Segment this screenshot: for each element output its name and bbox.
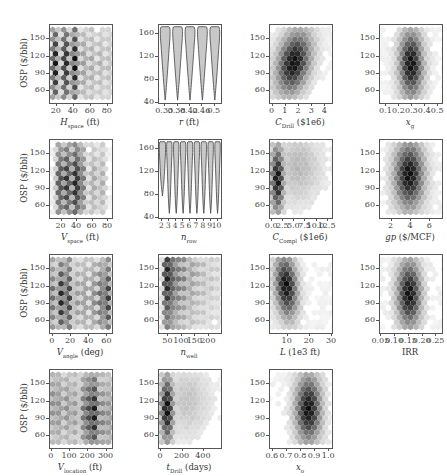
plot-area-vangle — [49, 254, 113, 334]
y-tick-mark — [376, 205, 379, 206]
y-tick-mark — [46, 56, 49, 57]
hexbin-density — [50, 140, 112, 218]
x-tick-mark — [201, 103, 202, 106]
x-tick-mark — [177, 103, 178, 106]
y-tick-label: 60 — [132, 316, 154, 324]
y-tick-mark — [266, 383, 269, 384]
x-axis-label: nwell — [148, 347, 230, 359]
y-tick-label: 120 — [132, 397, 154, 405]
plot-area-xg — [379, 24, 443, 104]
x-tick-mark — [203, 218, 204, 221]
y-tick-label: 90 — [243, 299, 265, 307]
x-tick-mark — [181, 333, 182, 336]
x-tick-mark — [70, 333, 71, 336]
y-tick-label: 120 — [243, 52, 265, 60]
x-label-subscript: Drill — [282, 123, 294, 129]
y-tick-mark — [155, 401, 158, 402]
x-tick-mark — [164, 103, 165, 106]
x-tick-mark — [314, 448, 315, 451]
y-tick-label: 120 — [243, 167, 265, 175]
y-tick-label: 160 — [132, 144, 154, 152]
y-tick-mark — [155, 418, 158, 419]
hexbin-density — [270, 370, 332, 448]
x-axis-label: Vspace (ft) — [39, 232, 121, 244]
x-tick-mark — [424, 103, 425, 106]
x-tick-mark — [73, 103, 74, 106]
y-tick-label: 40 — [132, 213, 154, 221]
y-tick-mark — [46, 320, 49, 321]
y-tick-mark — [266, 418, 269, 419]
y-tick-mark — [46, 286, 49, 287]
y-tick-label: 120 — [353, 52, 375, 60]
plot-area-hspace — [49, 24, 113, 104]
x-tick-label: 0.5 — [200, 107, 228, 115]
x-tick-label: 0.25 — [421, 337, 447, 345]
violin-plot — [159, 140, 221, 218]
x-tick-mark — [51, 448, 52, 451]
x-tick-mark — [76, 218, 77, 221]
x-tick-mark — [293, 218, 294, 221]
x-tick-mark — [189, 103, 190, 106]
y-tick-label: 90 — [243, 414, 265, 422]
x-tick-mark — [300, 448, 301, 451]
x-axis-label: CCompl ($1e6) — [259, 232, 341, 244]
x-tick-mark — [182, 218, 183, 221]
y-tick-label: 90 — [353, 69, 375, 77]
x-tick-label: 200 — [194, 337, 222, 345]
y-tick-mark — [46, 303, 49, 304]
x-tick-mark — [106, 448, 107, 451]
y-tick-label: 120 — [132, 52, 154, 60]
x-tick-label: 80 — [93, 107, 121, 115]
x-tick-label: 60 — [92, 337, 120, 345]
y-tick-label: 120 — [243, 397, 265, 405]
y-tick-mark — [46, 90, 49, 91]
x-tick-mark — [208, 333, 209, 336]
plot-area-vspace — [49, 139, 113, 219]
y-tick-mark — [266, 56, 269, 57]
y-tick-mark — [376, 188, 379, 189]
y-tick-label: 150 — [243, 379, 265, 387]
x-label-unit: (ft) — [86, 462, 102, 472]
y-tick-label: 150 — [243, 264, 265, 272]
x-label-unit: (1e3 ft) — [286, 347, 320, 357]
x-tick-mark — [285, 103, 286, 106]
x-tick-mark — [331, 333, 332, 336]
x-tick-mark — [394, 333, 395, 336]
y-tick-label: 60 — [243, 86, 265, 94]
y-tick-mark — [376, 73, 379, 74]
x-tick-mark — [160, 448, 161, 451]
hexbin-density — [270, 25, 332, 103]
x-tick-mark — [272, 103, 273, 106]
x-axis-label: Hspace (ft) — [39, 117, 121, 129]
y-tick-label: 120 — [132, 167, 154, 175]
y-tick-label: 150 — [353, 34, 375, 42]
plot-area-r — [158, 24, 222, 104]
hexbin-density — [159, 255, 221, 333]
hexbin-density — [159, 370, 221, 448]
y-tick-mark — [376, 320, 379, 321]
y-tick-mark — [376, 153, 379, 154]
y-tick-mark — [155, 217, 158, 218]
x-label-subscript: g — [411, 123, 415, 129]
x-tick-mark — [286, 448, 287, 451]
x-axis-label: tDrill (days) — [148, 462, 230, 474]
x-tick-mark — [328, 448, 329, 451]
y-tick-mark — [46, 171, 49, 172]
y-tick-mark — [155, 56, 158, 57]
x-label-subscript: o — [301, 468, 304, 474]
x-tick-mark — [196, 218, 197, 221]
x-tick-mark — [182, 448, 183, 451]
x-tick-mark — [56, 103, 57, 106]
y-tick-label: 90 — [243, 184, 265, 192]
y-tick-mark — [266, 38, 269, 39]
plot-area-gp — [379, 139, 443, 219]
x-tick-mark — [203, 448, 204, 451]
y-tick-mark — [46, 153, 49, 154]
y-tick-label: 120 — [132, 282, 154, 290]
y-tick-label: 160 — [132, 29, 154, 37]
y-tick-mark — [46, 435, 49, 436]
x-tick-mark — [398, 103, 399, 106]
y-tick-mark — [376, 268, 379, 269]
hexbin-density — [50, 255, 112, 333]
x-axis-label: IRR — [369, 347, 447, 359]
